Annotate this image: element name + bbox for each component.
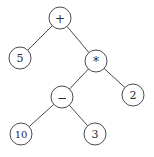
tree-nodes-group: +5*−2103: [9, 7, 144, 145]
tree-edge-*-to-minus: [70, 69, 89, 89]
node-label-10: 10: [15, 129, 28, 140]
tree-edge-*-to-2: [104, 68, 125, 87]
tree-node-10[interactable]: 10: [10, 123, 32, 145]
node-label-3: 3: [92, 128, 99, 141]
tree-edge-minus-to-3: [69, 105, 87, 126]
node-label-times: *: [93, 55, 99, 69]
tree-node-3[interactable]: 3: [84, 123, 106, 145]
node-label-plus: +: [55, 12, 65, 26]
tree-edges-group: [28, 26, 125, 127]
tree-node-plus[interactable]: +: [49, 7, 71, 29]
tree-edge-minus-to-10: [29, 104, 54, 126]
node-label-2: 2: [130, 89, 137, 102]
tree-node-5[interactable]: 5: [9, 47, 31, 69]
tree-node-times[interactable]: *: [85, 50, 107, 72]
tree-node-minus[interactable]: −: [51, 86, 73, 108]
tree-edge-+-to-*: [67, 26, 89, 52]
expression-tree-diagram: +5*−2103: [0, 0, 154, 157]
node-label-5: 5: [17, 52, 24, 65]
node-label-minus: −: [57, 91, 67, 105]
tree-svg-canvas: +5*−2103: [0, 0, 154, 157]
tree-edge-+-to-5: [28, 26, 52, 50]
tree-node-2[interactable]: 2: [122, 84, 144, 106]
